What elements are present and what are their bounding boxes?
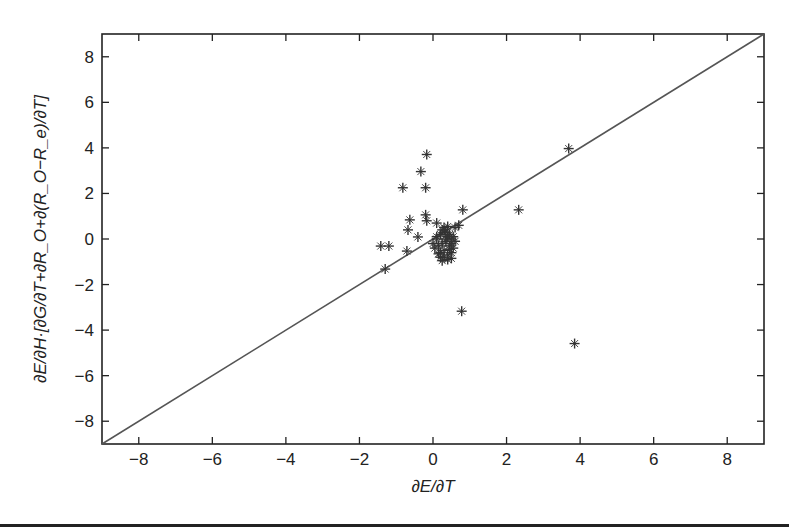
data-point — [413, 232, 423, 242]
data-point — [422, 216, 432, 226]
y-tick-label: 0 — [85, 230, 94, 249]
y-tick-label: −4 — [75, 321, 94, 340]
data-point — [437, 256, 447, 266]
y-tick-label: −2 — [75, 276, 94, 295]
scatter-chart: −8−6−4−202468 −8−6−4−202468 ∂E/∂T ∂E/∂H·… — [0, 0, 789, 527]
data-point — [446, 239, 456, 249]
data-point — [422, 149, 432, 159]
data-point — [564, 144, 574, 154]
data-point — [443, 221, 453, 231]
x-axis-ticks: −8−6−4−202468 — [129, 34, 732, 469]
y-axis-label: ∂E/∂H·[∂G/∂T+∂R_O+∂(R_O−R_e)/∂T] — [31, 94, 50, 383]
y-tick-label: 4 — [85, 139, 94, 158]
data-point — [458, 205, 468, 215]
y-axis-ticks: −8−6−4−202468 — [75, 48, 764, 431]
data-point — [402, 246, 412, 256]
y-tick-label: −8 — [75, 412, 94, 431]
data-point — [514, 205, 524, 215]
x-tick-label: 0 — [428, 450, 437, 469]
data-point — [416, 167, 426, 177]
y-tick-label: 2 — [85, 184, 94, 203]
x-tick-label: 2 — [502, 450, 511, 469]
data-points — [376, 144, 580, 349]
x-tick-label: −6 — [203, 450, 222, 469]
data-point — [398, 183, 408, 193]
data-point — [421, 183, 431, 193]
x-tick-label: 4 — [575, 450, 584, 469]
x-tick-label: 8 — [722, 450, 731, 469]
data-point — [570, 339, 580, 349]
data-point — [432, 218, 442, 228]
data-point — [380, 264, 390, 274]
data-point — [441, 234, 451, 244]
data-point — [457, 306, 467, 316]
x-axis-label: ∂E/∂T — [411, 477, 456, 496]
data-point — [454, 220, 464, 230]
y-tick-label: 8 — [85, 48, 94, 67]
y-tick-label: −6 — [75, 367, 94, 386]
data-point — [448, 232, 458, 242]
data-point — [403, 225, 413, 235]
x-tick-label: −2 — [350, 450, 369, 469]
data-point — [446, 253, 456, 263]
data-point — [432, 232, 442, 242]
x-tick-label: −8 — [129, 450, 148, 469]
x-tick-label: −4 — [276, 450, 295, 469]
x-tick-label: 6 — [649, 450, 658, 469]
data-point — [405, 215, 415, 225]
y-tick-label: 6 — [85, 93, 94, 112]
data-point — [384, 241, 394, 251]
